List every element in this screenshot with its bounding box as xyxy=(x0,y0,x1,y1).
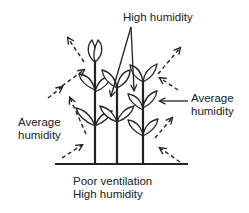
airflow-arrows xyxy=(48,38,180,162)
label-high-humidity-top: High humidity xyxy=(123,11,193,24)
label-average-humidity-right: Average humidity xyxy=(191,92,234,118)
high-humidity-pointers xyxy=(111,27,134,96)
label-poor-ventilation: Poor ventilation High humidity xyxy=(73,175,152,201)
leaves xyxy=(76,40,158,136)
label-average-humidity-left: Average humidity xyxy=(18,116,61,142)
